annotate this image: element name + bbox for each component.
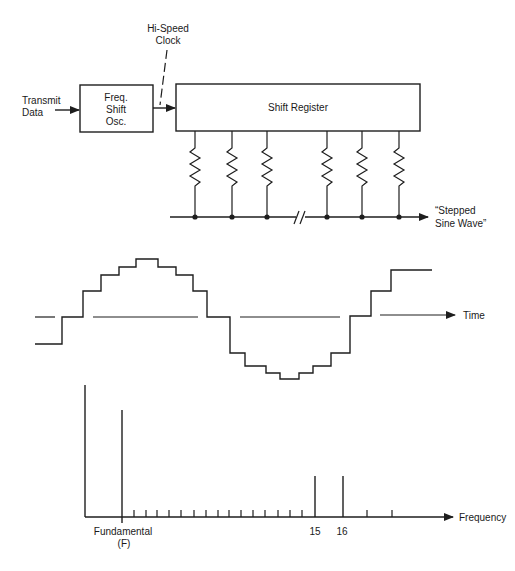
resistor-icon: [357, 131, 367, 217]
resistor-icon: [262, 131, 272, 217]
resistor-icon: [227, 131, 237, 217]
clock-dashed-line: [160, 50, 167, 105]
output-label-line1: “Stepped: [435, 205, 476, 216]
fso-label-line1: Freq.: [104, 92, 127, 103]
frequency-spectrum: Frequency 15 16 Fundamental (F): [85, 385, 506, 549]
fso-label-line2: Shift: [106, 104, 126, 115]
frequency-axis-label: Frequency: [459, 512, 506, 523]
stepped-sine-diagram: Transmit Data Freq. Shift Osc. Hi-Speed …: [0, 0, 515, 571]
transmit-data-label-line1: Transmit: [22, 95, 61, 106]
harmonic-15-label: 15: [309, 526, 321, 537]
harmonic-16-label: 16: [336, 526, 348, 537]
fundamental-label-line2: (F): [118, 538, 131, 549]
stepped-waveform: Time: [35, 259, 485, 379]
break-mark: [300, 211, 305, 224]
harmonic-ticks: [134, 510, 392, 517]
fso-label-line3: Osc.: [106, 116, 127, 127]
resistor-icon: [394, 131, 404, 217]
output-label-line2: Sine Wave”: [435, 218, 486, 229]
block-diagram: Transmit Data Freq. Shift Osc. Hi-Speed …: [22, 23, 486, 229]
clock-label-line2: Clock: [155, 35, 181, 46]
transmit-data-label-line2: Data: [22, 107, 44, 118]
stepped-sine-path: [35, 259, 432, 379]
resistor-icon: [322, 131, 332, 217]
time-axis-label: Time: [463, 310, 485, 321]
shift-register-label: Shift Register: [268, 102, 329, 113]
resistor-icon: [190, 131, 200, 217]
fundamental-label-line1: Fundamental: [94, 526, 152, 537]
clock-label-line1: Hi-Speed: [147, 23, 189, 34]
resistor-ladder: [190, 131, 404, 220]
